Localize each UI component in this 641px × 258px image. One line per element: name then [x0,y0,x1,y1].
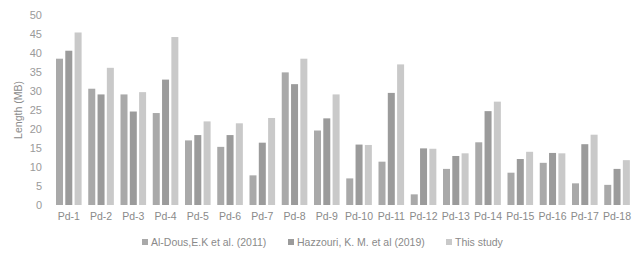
bar [572,183,579,205]
bar [549,153,556,205]
bar [526,152,533,205]
x-tick-label: Pd-9 [316,210,338,222]
bar [365,145,372,205]
x-tick-label: Pd-2 [90,210,112,222]
bar [323,118,330,205]
y-tick-label: 45 [30,28,42,40]
bar [282,72,289,205]
x-tick-label: Pd-11 [378,210,405,222]
bar [604,185,611,205]
bar [107,68,114,205]
y-tick-label: 5 [36,180,42,192]
bar [300,59,307,205]
bar [171,37,178,205]
legend-item-al-dous: Al-Dous,E.K et al. (2011) [142,236,266,248]
x-tick-label: Pd-16 [539,210,567,222]
bar [291,84,298,205]
legend-label: Hazzouri, K. M. et al (2019) [297,236,425,248]
bar [443,169,450,205]
bar [581,144,588,205]
legend-swatch-icon [446,239,452,245]
bar [429,149,436,205]
bar [517,159,524,205]
bar [236,123,243,205]
x-tick-label: Pd-10 [345,210,373,222]
bar [411,194,418,205]
x-tick-label: Pd-14 [474,210,502,222]
x-tick-label: Pd-4 [154,210,176,222]
legend-item-this-study: This study [446,236,503,248]
x-tick-label: Pd-13 [442,210,470,222]
legend-swatch-icon [288,239,294,245]
bar [333,94,340,205]
bar [268,118,275,205]
y-tick-label: 35 [30,66,42,78]
bar [485,111,492,205]
legend-swatch-icon [142,239,148,245]
x-tick-label: Pd-8 [283,210,305,222]
x-tick-label: Pd-7 [251,210,273,222]
bar [98,94,105,205]
bar [494,102,501,205]
bar [194,135,201,205]
bar [121,94,128,205]
bar [162,80,169,205]
y-tick-label: 30 [30,85,42,97]
bar [88,89,95,205]
x-tick-label: Pd-18 [603,210,631,222]
bar [250,175,257,205]
bar-chart: 05101520253035404550 Length (MB) Pd-1Pd-… [0,0,641,258]
x-tick-label: Pd-3 [122,210,144,222]
x-axis: Pd-1Pd-2Pd-3Pd-4Pd-5Pd-6Pd-7Pd-8Pd-9Pd-1… [58,210,632,222]
bar [204,121,211,205]
bar [346,178,353,205]
bar [420,148,427,205]
legend-label: Al-Dous,E.K et al. (2011) [151,236,266,248]
bar [139,92,146,205]
bar [153,113,160,205]
bar [65,51,72,205]
bar [217,147,224,205]
y-tick-label: 20 [30,123,42,135]
bar [462,153,469,205]
bar [508,173,515,205]
bar [75,32,82,205]
bar [259,143,266,205]
x-tick-label: Pd-5 [187,210,209,222]
x-tick-label: Pd-6 [219,210,241,222]
bar [130,112,137,205]
y-tick-label: 10 [30,161,42,173]
bar [185,140,192,205]
bar [558,153,565,205]
bar [623,160,630,205]
bar [356,145,363,205]
bar [56,59,63,205]
bars [56,32,630,205]
bar [388,93,395,205]
bar [397,64,404,205]
x-tick-label: Pd-1 [58,210,80,222]
y-tick-label: 15 [30,142,42,154]
bar [379,162,386,205]
bar [475,142,482,205]
bar [614,169,621,205]
y-axis-title: Length (MB) [12,81,24,139]
legend-label: This study [455,236,503,248]
bar [540,163,547,205]
x-tick-label: Pd-12 [410,210,438,222]
y-tick-label: 40 [30,47,42,59]
y-tick-label: 50 [30,9,42,21]
bar [314,131,321,205]
bar [591,135,598,205]
y-axis: 05101520253035404550 [30,9,42,211]
legend: Al-Dous,E.K et al. (2011) Hazzouri, K. M… [0,236,641,250]
y-tick-label: 0 [36,199,42,211]
x-tick-label: Pd-15 [506,210,534,222]
legend-item-hazzouri: Hazzouri, K. M. et al (2019) [288,236,425,248]
bar [452,156,459,205]
bar [227,135,234,205]
x-tick-label: Pd-17 [571,210,599,222]
y-tick-label: 25 [30,104,42,116]
